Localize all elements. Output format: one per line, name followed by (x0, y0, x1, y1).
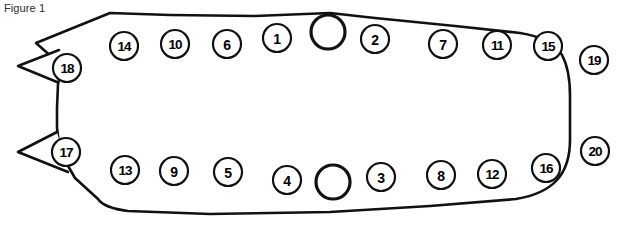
bolt-number-1: 1 (273, 31, 281, 47)
bolt-marker-2[interactable]: 2 (361, 25, 389, 53)
bolt-marker-4[interactable]: 4 (273, 166, 301, 194)
bolt-number-19: 19 (588, 53, 601, 68)
bolt-number-16: 16 (540, 161, 554, 176)
bolt-marker-12[interactable]: 12 (478, 160, 506, 188)
bolt-marker-1[interactable]: 1 (263, 24, 291, 52)
bolt-number-15: 15 (542, 39, 556, 54)
bolt-marker-6[interactable]: 6 (213, 30, 241, 58)
bolt-number-11: 11 (491, 38, 505, 53)
bolt-number-14: 14 (118, 39, 132, 54)
bolt-marker-18[interactable]: 18 (53, 54, 81, 82)
bolt-marker-5[interactable]: 5 (214, 158, 242, 186)
bolt-marker-10[interactable]: 10 (161, 30, 189, 58)
torque-sequence-diagram: 1234567891011121314151617181920 (0, 0, 642, 225)
bolt-marker-14[interactable]: 14 (110, 32, 138, 60)
bolt-number-18: 18 (61, 61, 75, 76)
bolt-marker-9[interactable]: 9 (160, 157, 188, 185)
bolt-number-3: 3 (377, 170, 385, 186)
bolt-number-7: 7 (439, 37, 447, 53)
top-center-hole (311, 15, 345, 49)
bolt-marker-16[interactable]: 16 (532, 154, 560, 182)
bolt-number-12: 12 (486, 167, 499, 182)
bolt-number-20: 20 (589, 144, 602, 159)
bolt-marker-11[interactable]: 11 (483, 31, 511, 59)
bolt-number-6: 6 (223, 37, 231, 53)
bolt-number-4: 4 (283, 173, 291, 189)
figure-container: Figure 1 1234567891011121314151617181920 (0, 0, 642, 225)
bolt-marker-3[interactable]: 3 (367, 163, 395, 191)
bolt-marker-7[interactable]: 7 (429, 30, 457, 58)
bolt-number-8: 8 (437, 168, 445, 184)
bolt-marker-17[interactable]: 17 (52, 138, 80, 166)
bolt-number-13: 13 (119, 163, 133, 178)
bolt-marker-19[interactable]: 19 (580, 46, 608, 74)
bolt-number-10: 10 (169, 37, 182, 52)
bolt-marker-8[interactable]: 8 (427, 161, 455, 189)
bottom-center-hole (316, 165, 350, 199)
bolt-number-9: 9 (170, 164, 178, 180)
bolt-number-2: 2 (371, 32, 379, 48)
bolt-marker-15[interactable]: 15 (534, 32, 562, 60)
bolt-marker-20[interactable]: 20 (581, 137, 609, 165)
bolt-number-17: 17 (60, 145, 73, 160)
bolt-marker-13[interactable]: 13 (111, 156, 139, 184)
bolt-number-5: 5 (224, 165, 232, 181)
